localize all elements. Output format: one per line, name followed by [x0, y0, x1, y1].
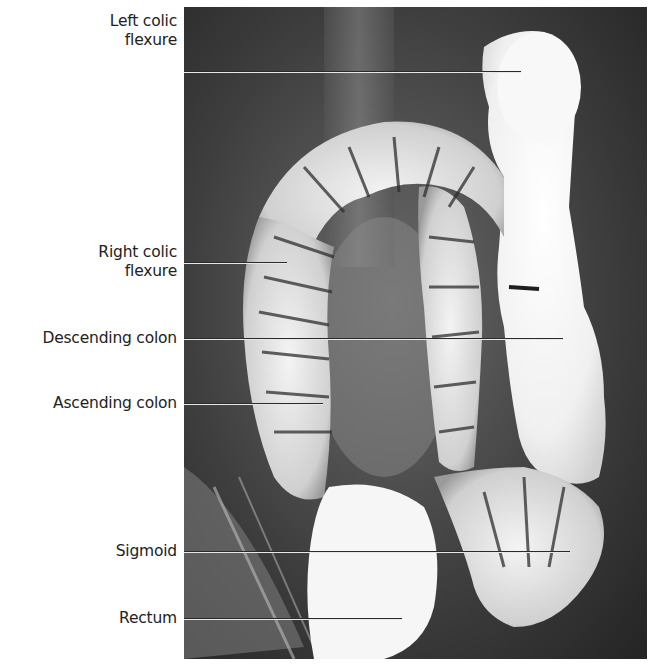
leader-line-left-colic-flexure: [184, 71, 521, 73]
leader-line-sigmoid: [184, 551, 570, 553]
label-text: Rectum: [119, 609, 177, 628]
label-text: Descending colon: [42, 329, 177, 348]
label-text: Sigmoid: [116, 542, 177, 561]
label-text: flexure: [110, 31, 177, 50]
label-ascending-colon: Ascending colon: [53, 394, 177, 413]
label-left-colic-flexure: Left colic flexure: [110, 12, 177, 50]
leader-line-right-colic-flexure: [184, 262, 287, 264]
leader-line-ascending-colon: [184, 403, 323, 405]
colon-radiograph-illustration: [184, 7, 647, 659]
label-right-colic-flexure: Right colic flexure: [98, 243, 177, 281]
leader-line-rectum: [184, 618, 402, 620]
label-rectum: Rectum: [119, 609, 177, 628]
leader-line-descending-colon: [184, 338, 563, 340]
label-text: Right colic: [98, 243, 177, 262]
label-descending-colon: Descending colon: [42, 329, 177, 348]
xray-image: [184, 7, 647, 659]
label-text: Left colic: [110, 12, 177, 31]
label-text: flexure: [98, 262, 177, 281]
label-sigmoid: Sigmoid: [116, 542, 177, 561]
label-text: Ascending colon: [53, 394, 177, 413]
